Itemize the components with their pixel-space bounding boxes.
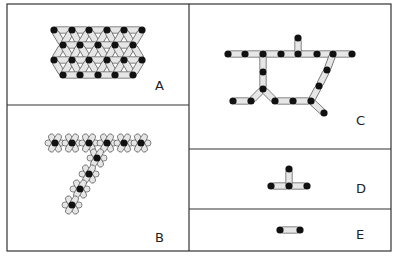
panel-label-a: A <box>155 78 164 93</box>
panel-label-e: E <box>356 227 364 242</box>
petal-links <box>45 133 151 215</box>
connector-links <box>51 27 352 233</box>
panel-label-d: D <box>356 181 366 196</box>
panel-label-b: B <box>155 230 164 245</box>
figure-canvas <box>0 0 398 260</box>
panel-label-c: C <box>356 113 365 128</box>
